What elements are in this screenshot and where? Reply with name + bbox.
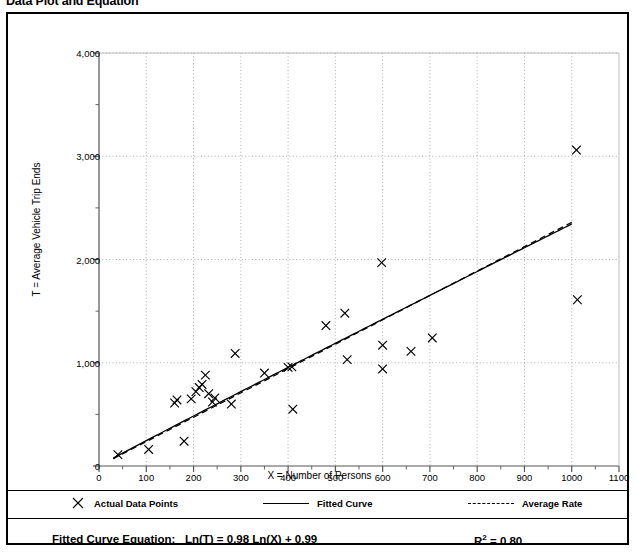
fitted-curve-equation: Fitted Curve Equation: Ln(T) = 0.98 Ln(X… bbox=[52, 533, 317, 545]
cross-marker-icon bbox=[70, 497, 86, 509]
r-squared-value: R2 = 0.80 bbox=[474, 533, 522, 547]
legend-item-actual-data-points: Actual Data Points bbox=[70, 497, 178, 509]
dashed-line-icon bbox=[468, 497, 514, 509]
y-axis-title: T = Average Vehicle Trip Ends bbox=[31, 140, 42, 320]
equation-footer: Fitted Curve Equation: Ln(T) = 0.98 Ln(X… bbox=[8, 518, 627, 553]
data-point-marker bbox=[180, 437, 189, 446]
x-axis-title: X = Number of Persons bbox=[8, 470, 631, 481]
data-point-marker bbox=[227, 400, 236, 409]
data-point-marker bbox=[204, 389, 213, 398]
y-axis-tick-label: 2,000 bbox=[54, 254, 100, 265]
legend-label-average-rate: Average Rate bbox=[522, 498, 582, 509]
data-point-marker bbox=[289, 405, 298, 414]
legend-item-average-rate: Average Rate bbox=[468, 497, 582, 509]
y-axis-tick-label: 3,000 bbox=[54, 151, 100, 162]
data-point-marker bbox=[173, 396, 182, 405]
data-point-marker bbox=[407, 347, 416, 356]
data-point-marker bbox=[192, 387, 201, 396]
r-squared-number: = 0.80 bbox=[490, 535, 522, 547]
equation-text: Ln(T) = 0.98 Ln(X) + 0.99 bbox=[185, 533, 317, 545]
data-point-marker bbox=[144, 445, 153, 454]
data-point-marker bbox=[428, 334, 437, 343]
y-axis-tick-label: 1,000 bbox=[54, 357, 100, 368]
data-point-marker bbox=[572, 146, 581, 155]
y-axis-tick-labels: 01,0002,0003,0004,000 bbox=[48, 14, 100, 488]
data-point-marker bbox=[260, 369, 269, 378]
r-squared-exponent: 2 bbox=[482, 533, 486, 542]
legend-label-fitted-curve: Fitted Curve bbox=[317, 498, 372, 509]
chart-legend: Actual Data Points Fitted Curve Average … bbox=[8, 490, 627, 519]
solid-line-icon bbox=[263, 497, 309, 509]
data-point-marker bbox=[211, 394, 220, 403]
data-point-marker bbox=[198, 380, 207, 389]
data-point-marker bbox=[231, 349, 240, 358]
equation-label: Fitted Curve Equation: bbox=[52, 533, 175, 545]
data-point-marker bbox=[201, 371, 210, 380]
legend-item-fitted-curve: Fitted Curve bbox=[263, 497, 372, 509]
data-point-marker bbox=[322, 321, 331, 330]
data-point-marker bbox=[343, 355, 352, 364]
data-point-marker bbox=[573, 295, 582, 304]
data-point-marker bbox=[341, 309, 350, 318]
figure-frame: T = Average Vehicle Trip Ends 01,0002,00… bbox=[6, 12, 629, 545]
legend-label-actual-data-points: Actual Data Points bbox=[94, 498, 178, 509]
scatter-plot-canvas bbox=[8, 14, 631, 488]
data-point-marker bbox=[187, 395, 196, 404]
plot-region: T = Average Vehicle Trip Ends 01,0002,00… bbox=[8, 14, 631, 488]
y-axis-tick-label: 4,000 bbox=[54, 48, 100, 59]
page-title: Data Plot and Equation bbox=[6, 0, 138, 8]
